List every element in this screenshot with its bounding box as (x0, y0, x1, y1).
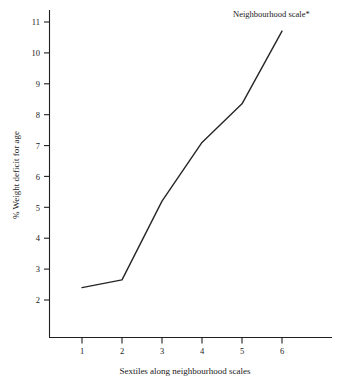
y-axis-ticks (44, 22, 50, 300)
x-tick-label-6: 6 (280, 346, 284, 356)
y-axis-title: % Weight deficit for age (11, 131, 21, 219)
y-tick-label-11: 11 (32, 17, 40, 27)
x-axis-title: Sextiles along neighbourhood scales (119, 366, 251, 376)
series-annotation-label: Neighbourhood scale* (233, 9, 310, 19)
x-tick-label-5: 5 (240, 346, 244, 356)
data-series-line (82, 31, 282, 288)
y-tick-label-4: 4 (36, 233, 41, 243)
y-tick-label-2: 2 (36, 295, 40, 305)
y-tick-label-8: 8 (36, 110, 40, 120)
y-tick-label-10: 10 (32, 48, 41, 58)
x-tick-label-3: 3 (160, 346, 164, 356)
x-axis-tick-labels: 1 2 3 4 5 6 (80, 346, 284, 356)
x-tick-label-2: 2 (120, 346, 124, 356)
y-tick-label-5: 5 (36, 203, 40, 213)
x-axis-ticks (82, 338, 282, 344)
x-tick-label-4: 4 (200, 346, 205, 356)
y-tick-label-9: 9 (36, 79, 40, 89)
y-axis-tick-labels: 11 10 9 8 7 6 5 4 3 2 (32, 17, 41, 305)
line-chart: 11 10 9 8 7 6 5 4 3 2 1 2 3 4 5 6 (0, 0, 338, 380)
y-tick-label-7: 7 (36, 141, 40, 151)
chart-container: 11 10 9 8 7 6 5 4 3 2 1 2 3 4 5 6 (0, 0, 338, 380)
y-tick-label-6: 6 (36, 172, 40, 182)
x-tick-label-1: 1 (80, 346, 84, 356)
y-tick-label-3: 3 (36, 264, 40, 274)
